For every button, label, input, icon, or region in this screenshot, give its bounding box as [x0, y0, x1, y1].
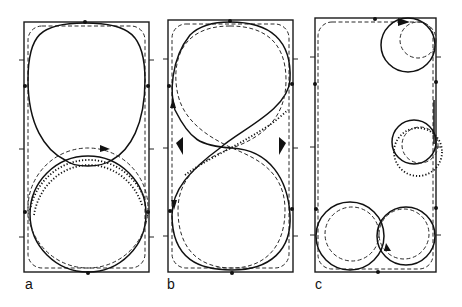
panel-c-label: c — [315, 276, 322, 292]
panel-c-bottom-right-circle — [377, 207, 435, 265]
figure-canvas: a b — [0, 0, 462, 307]
panel-b-label: b — [167, 276, 175, 292]
arrow-icon — [384, 243, 391, 251]
panel-a-lower-circle — [30, 156, 146, 272]
panel-b-dotted-path — [185, 110, 288, 175]
arrowhead-right-icon — [279, 137, 286, 155]
panel-c-top-orbit — [381, 18, 435, 72]
panel-c: c — [310, 17, 442, 292]
panel-b-frame — [168, 20, 293, 272]
panel-c-dashed-boundary — [318, 22, 433, 269]
panel-a: a — [19, 20, 154, 292]
panel-b-dashed-boundary — [172, 24, 289, 268]
panel-b: b — [163, 19, 298, 292]
panel-c-mid-orbit — [392, 120, 436, 164]
panel-c-frame — [315, 18, 436, 272]
panel-a-label: a — [25, 276, 33, 292]
arrowhead-left-icon — [176, 137, 183, 155]
panel-a-upper-loop — [28, 23, 145, 166]
panel-b-figure-eight — [172, 22, 290, 270]
panel-c-bottom-left-circle — [316, 202, 384, 270]
panel-a-frame — [24, 22, 149, 272]
